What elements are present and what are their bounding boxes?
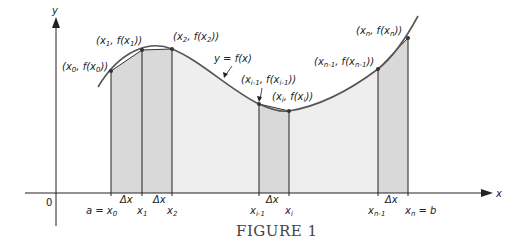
x-axis-label: x	[495, 188, 502, 199]
tick-xn-1: xn-1	[367, 205, 385, 218]
figure-caption: FIGURE 1	[236, 222, 318, 240]
trapezoid-n	[378, 38, 408, 193]
label-pn-1: (xn-1, f(xn-1))	[314, 56, 374, 69]
label-p1: (x1, f(x1))	[96, 35, 142, 48]
tick-x0: a = x0	[86, 205, 118, 218]
label-pn: (xn, f(xn))	[356, 25, 402, 38]
y-axis-label: y	[51, 5, 59, 16]
tick-xi-1: xi-1	[249, 205, 265, 218]
delta-x-label: Δx	[119, 194, 133, 205]
y-axis-arrow-icon	[52, 17, 60, 28]
label-pi: (xi, f(xi))	[272, 91, 313, 104]
tick-x2: x2	[166, 205, 178, 218]
tick-x1: x1	[136, 205, 147, 218]
trapezoid-2	[142, 49, 172, 193]
delta-x-label: Δx	[265, 194, 279, 205]
tick-labels: a = x0 x1 x2 xi-1 xi xn-1 xn = b	[86, 205, 436, 218]
trapezoidal-rule-figure: y x 0 (x0, f(x0)) (x1, f(x1)) (x2, f(x2)…	[0, 0, 526, 243]
x-axis-arrow-icon	[481, 189, 493, 197]
label-pi-1: (xi-1, f(xi-1))	[241, 74, 296, 87]
delta-labels: Δx Δx Δx Δx	[119, 194, 398, 205]
origin-label: 0	[46, 197, 52, 208]
tick-xi: xi	[284, 205, 293, 218]
delta-x-label: Δx	[152, 194, 166, 205]
trapezoid-i	[259, 104, 289, 193]
delta-x-label: Δx	[384, 194, 398, 205]
label-p0: (x0, f(x0))	[62, 61, 108, 74]
label-p2: (x2, f(x2))	[173, 31, 219, 44]
curve-label: y = f(x)	[213, 53, 252, 64]
tick-xn: xn = b	[404, 205, 436, 218]
trapezoid-1	[111, 50, 142, 193]
